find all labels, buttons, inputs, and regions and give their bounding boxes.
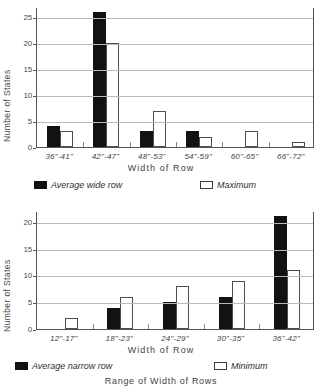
y-tick-label: 15 bbox=[10, 65, 32, 74]
gridline bbox=[37, 250, 313, 251]
y-tick-label: 0 bbox=[10, 143, 32, 152]
y-tick-label: 20 bbox=[10, 218, 32, 227]
y-tick-mark bbox=[33, 148, 36, 149]
legend-label: Maximum bbox=[217, 180, 256, 190]
x-tick-mark bbox=[269, 142, 270, 147]
x-tick-label: 42"-47" bbox=[82, 152, 128, 161]
x-axis-label-bottom: Width of Row bbox=[0, 345, 322, 355]
figure-two-bar-charts: Number of States 0510152025 36"-41"42"-4… bbox=[0, 0, 322, 386]
x-tick-mark bbox=[93, 324, 94, 329]
x-tick-label: 54"-59" bbox=[175, 152, 221, 161]
bar bbox=[107, 308, 120, 329]
y-tick-label: 5 bbox=[10, 117, 32, 126]
y-tick-mark bbox=[33, 330, 36, 331]
y-tick-label: 20 bbox=[10, 39, 32, 48]
legend-swatch-solid-icon bbox=[34, 181, 47, 189]
bar bbox=[153, 111, 166, 147]
y-tick-mark bbox=[33, 44, 36, 45]
gridline bbox=[37, 96, 313, 97]
bar-group bbox=[37, 211, 93, 329]
gridline bbox=[37, 44, 313, 45]
legend-swatch-solid-icon bbox=[15, 362, 28, 370]
x-tick-mark bbox=[130, 142, 131, 147]
gridline bbox=[37, 122, 313, 123]
y-tick-label: 10 bbox=[10, 91, 32, 100]
bar-group bbox=[148, 211, 204, 329]
bar bbox=[176, 286, 189, 329]
bar bbox=[232, 281, 245, 329]
bar bbox=[287, 270, 300, 329]
legend-label: Average narrow row bbox=[32, 361, 112, 371]
bar-group bbox=[130, 7, 176, 147]
x-tick-label: 18"-23" bbox=[92, 334, 148, 343]
x-tick-label: 66"-72" bbox=[268, 152, 314, 161]
bar-group bbox=[269, 7, 315, 147]
bar bbox=[199, 137, 212, 147]
legend-bottom: Average narrow row Minimum bbox=[0, 361, 322, 375]
chart-top: Number of States 0510152025 36"-41"42"-4… bbox=[0, 0, 322, 198]
bar bbox=[120, 297, 133, 329]
figure-caption: Range of Width of Rows bbox=[0, 376, 322, 386]
y-tick-mark bbox=[33, 250, 36, 251]
bar bbox=[140, 131, 153, 147]
bar bbox=[65, 318, 78, 329]
bar-groups-bottom bbox=[37, 212, 313, 329]
x-tick-mark bbox=[176, 142, 177, 147]
legend-item-average-wide-row: Average wide row bbox=[34, 180, 122, 190]
x-tick-label: 48"-53" bbox=[129, 152, 175, 161]
y-tick-label: 25 bbox=[10, 13, 32, 22]
x-tick-label: 24"-29" bbox=[147, 334, 203, 343]
legend-label: Average wide row bbox=[51, 180, 122, 190]
legend-label: Minimum bbox=[231, 361, 268, 371]
chart-bottom: Number of States 05101520 12"-17"18"-23"… bbox=[0, 198, 322, 386]
bar bbox=[245, 131, 258, 147]
bar-group bbox=[222, 7, 268, 147]
bar bbox=[106, 43, 119, 147]
gridline bbox=[37, 18, 313, 19]
bar-group bbox=[93, 211, 149, 329]
y-tick-label: 15 bbox=[10, 245, 32, 254]
bar bbox=[219, 297, 232, 329]
bar-group bbox=[204, 211, 260, 329]
gridline bbox=[37, 303, 313, 304]
y-tick-mark bbox=[33, 70, 36, 71]
bar-groups-top bbox=[37, 8, 313, 147]
legend-top: Average wide row Maximum bbox=[0, 180, 322, 194]
x-tick-mark bbox=[204, 324, 205, 329]
y-tick-mark bbox=[33, 276, 36, 277]
x-tick-label: 30"-35" bbox=[203, 334, 259, 343]
x-tick-label: 60"-65" bbox=[221, 152, 267, 161]
y-tick-label: 10 bbox=[10, 271, 32, 280]
y-tick-mark bbox=[33, 96, 36, 97]
legend-swatch-hollow-icon bbox=[214, 362, 227, 370]
bar bbox=[274, 216, 287, 329]
legend-item-average-narrow-row: Average narrow row bbox=[15, 361, 112, 371]
x-tick-mark bbox=[83, 142, 84, 147]
gridline bbox=[37, 223, 313, 224]
plot-area-top bbox=[36, 8, 314, 148]
bar bbox=[163, 302, 176, 329]
legend-item-maximum: Maximum bbox=[200, 180, 256, 190]
bar-group bbox=[37, 7, 83, 147]
x-tick-label: 36"-42" bbox=[258, 334, 314, 343]
bar-group bbox=[176, 7, 222, 147]
y-tick-mark bbox=[33, 18, 36, 19]
x-axis-label-top: Width of Row bbox=[0, 163, 322, 173]
bar-group bbox=[83, 7, 129, 147]
y-tick-mark bbox=[33, 223, 36, 224]
legend-swatch-hollow-icon bbox=[200, 181, 213, 189]
x-tick-label: 12"-17" bbox=[36, 334, 92, 343]
gridline bbox=[37, 276, 313, 277]
legend-item-minimum: Minimum bbox=[214, 361, 268, 371]
x-tick-mark bbox=[259, 324, 260, 329]
plot-area-bottom bbox=[36, 212, 314, 330]
y-tick-label: 5 bbox=[10, 298, 32, 307]
y-tick-mark bbox=[33, 122, 36, 123]
x-tick-label: 36"-41" bbox=[36, 152, 82, 161]
y-tick-label: 0 bbox=[10, 325, 32, 334]
x-tick-mark bbox=[222, 142, 223, 147]
bar bbox=[47, 126, 60, 147]
x-tick-mark bbox=[148, 324, 149, 329]
bar bbox=[60, 131, 73, 147]
bar bbox=[93, 12, 106, 147]
